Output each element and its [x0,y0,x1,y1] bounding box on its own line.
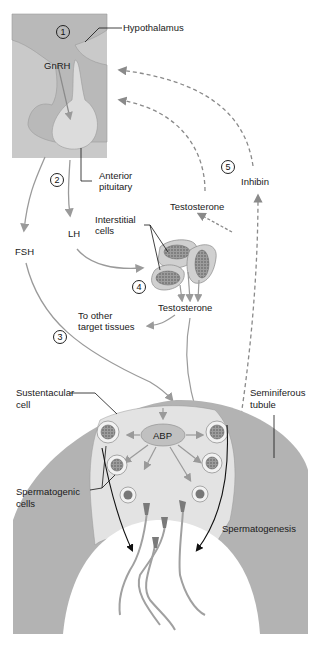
anterior-pituitary-label-1: Anterior [99,170,132,181]
to-other-label-2: target tissues [78,321,135,332]
step-5-badge: 5 [221,160,235,174]
step-4-badge: 4 [132,280,146,294]
sustentacular-label-2: cell [16,399,30,410]
interstitial-cells [152,240,217,290]
diagram-canvas [0,0,321,649]
sustentacular-label-1: Sustentacular [16,387,74,398]
step-1-badge: 1 [56,25,70,39]
to-other-label-1: To other [78,310,112,321]
seminiferous-label-1: Seminiferous [250,387,305,398]
gnrh-label: GnRH [44,60,70,71]
spermatogenic-label-1: Spermatogenic [16,486,80,497]
spermatogenesis-label: Spermatogenesis [222,523,296,534]
abp-label: ABP [153,430,172,441]
hypothalamus-label: Hypothalamus [123,22,184,33]
spermatogenic-label-2: cells [16,498,35,509]
interstitial-cells-label-1: Interstitial [95,214,136,225]
step-2-badge: 2 [50,173,64,187]
lh-label: LH [68,228,80,239]
interstitial-cells-label-2: cells [95,225,114,236]
anterior-pituitary-label-2: pituitary [99,181,132,192]
step-3-badge: 3 [53,330,67,344]
inhibin-label: Inhibin [241,176,269,187]
seminiferous-label-2: tubule [250,399,276,410]
testosterone-upper-label: Testosterone [170,201,224,212]
fsh-label: FSH [15,246,34,257]
testosterone-lower-label: Testosterone [158,302,212,313]
